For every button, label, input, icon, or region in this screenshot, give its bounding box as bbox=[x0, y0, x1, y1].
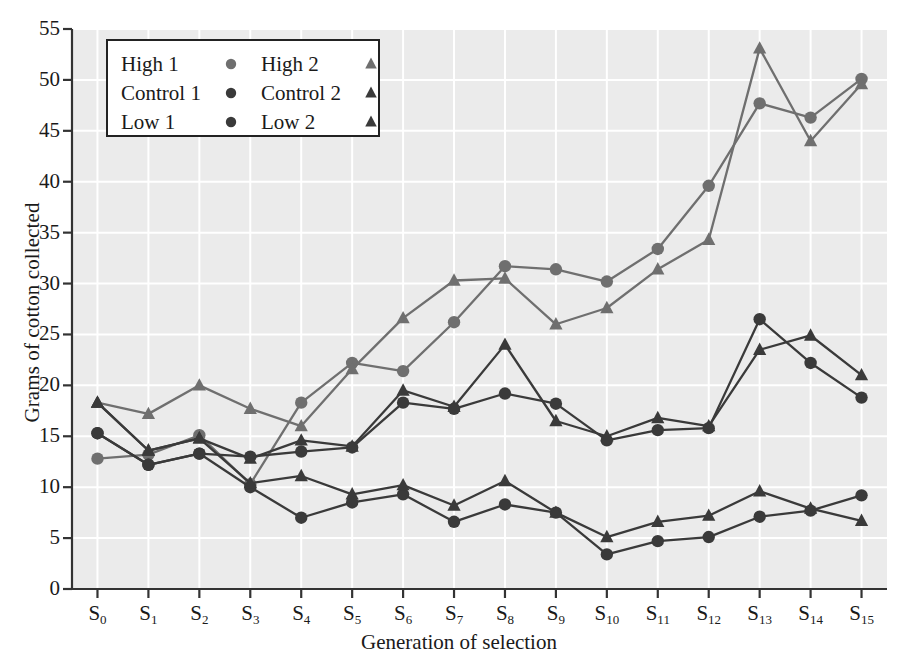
data-point-circle bbox=[499, 260, 511, 272]
data-point-circle bbox=[703, 180, 715, 192]
data-point-circle bbox=[652, 243, 664, 255]
data-point-circle bbox=[499, 387, 511, 399]
legend-label: Low 1 bbox=[121, 110, 175, 134]
data-point-circle bbox=[91, 427, 103, 439]
legend-marker-circle bbox=[226, 59, 236, 69]
data-point-circle bbox=[295, 512, 307, 524]
plot-area: High 1High 2Control 1Control 2Low 1Low 2 bbox=[0, 0, 918, 666]
data-point-circle bbox=[804, 357, 816, 369]
legend-marker-circle bbox=[226, 88, 236, 98]
data-point-circle bbox=[91, 452, 103, 464]
legend: High 1High 2Control 1Control 2Low 1Low 2 bbox=[107, 40, 379, 136]
data-point-circle bbox=[753, 97, 765, 109]
data-point-circle bbox=[448, 516, 460, 528]
data-point-circle bbox=[142, 459, 154, 471]
legend-label: High 1 bbox=[121, 52, 179, 76]
data-point-circle bbox=[193, 447, 205, 459]
legend-marker-circle bbox=[226, 117, 236, 127]
legend-label: Control 2 bbox=[261, 81, 341, 105]
data-point-circle bbox=[550, 397, 562, 409]
data-point-circle bbox=[601, 548, 613, 560]
legend-label: Low 2 bbox=[261, 110, 315, 134]
data-point-circle bbox=[753, 313, 765, 325]
data-point-circle bbox=[397, 396, 409, 408]
legend-label: High 2 bbox=[261, 52, 319, 76]
data-point-circle bbox=[804, 111, 816, 123]
data-point-circle bbox=[295, 445, 307, 457]
data-point-circle bbox=[601, 275, 613, 287]
data-point-circle bbox=[855, 489, 867, 501]
data-point-circle bbox=[448, 316, 460, 328]
data-point-circle bbox=[397, 365, 409, 377]
data-point-circle bbox=[855, 391, 867, 403]
data-point-circle bbox=[703, 531, 715, 543]
data-point-circle bbox=[295, 396, 307, 408]
legend-label: Control 1 bbox=[121, 81, 201, 105]
data-point-circle bbox=[652, 424, 664, 436]
data-point-circle bbox=[550, 263, 562, 275]
data-point-circle bbox=[753, 511, 765, 523]
chart-container: Grams of cotton collected Generation of … bbox=[0, 0, 918, 666]
data-point-circle bbox=[652, 535, 664, 547]
data-point-circle bbox=[499, 498, 511, 510]
